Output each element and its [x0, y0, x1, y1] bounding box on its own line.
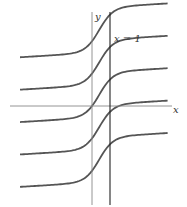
solution-curves: [20, 3, 168, 186]
x-axis-label: x: [173, 104, 179, 115]
curve-5: [20, 133, 168, 187]
y-axis-label: y: [94, 11, 101, 22]
curve-1: [20, 3, 168, 57]
curve-4: [20, 101, 168, 155]
curve-2: [20, 36, 168, 90]
diagram: x y x = 1: [0, 0, 187, 207]
curve-3: [20, 68, 168, 122]
vertical-line-label: x = 1: [114, 33, 141, 44]
